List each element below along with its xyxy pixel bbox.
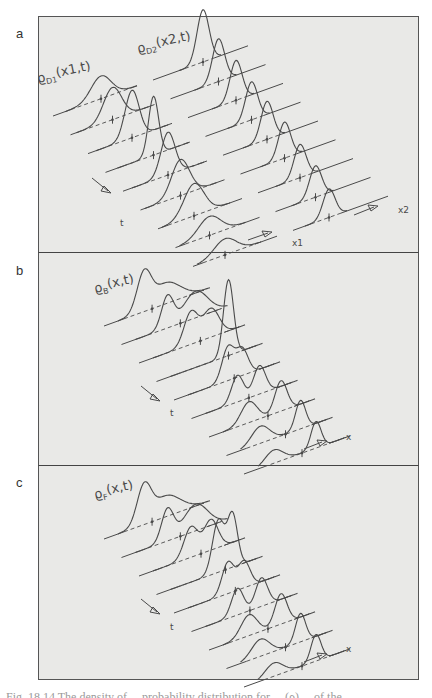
axis-label: x2: [398, 205, 409, 215]
axis-label: t: [170, 622, 174, 632]
figure-caption: Fig. 18.14 The density of ... probabilit…: [6, 689, 432, 698]
curve-labels: ϱD1(x1,t)ϱD2(x2,t)x1x2tϱB(x,t)xtϱF(x,t)x…: [35, 28, 409, 654]
curve-label: ϱD2(x2,t): [135, 28, 193, 58]
axis-label: x1: [292, 238, 303, 248]
panel-a-plot: [53, 10, 388, 267]
axis-label: t: [170, 408, 174, 418]
curve-label: ϱD1(x1,t): [35, 58, 93, 88]
panel-c-plot: [104, 482, 350, 687]
axis-label: t: [120, 218, 124, 228]
curve-label: ϱF(x,t): [92, 477, 135, 504]
axis-label: x: [346, 644, 352, 654]
curve-label: ϱB(x,t): [92, 271, 136, 298]
panel-b-plot: [104, 269, 350, 474]
waterfall-plots: ϱD1(x1,t)ϱD2(x2,t)x1x2tϱB(x,t)xtϱF(x,t)x…: [0, 0, 432, 698]
axis-label: x: [346, 432, 352, 442]
